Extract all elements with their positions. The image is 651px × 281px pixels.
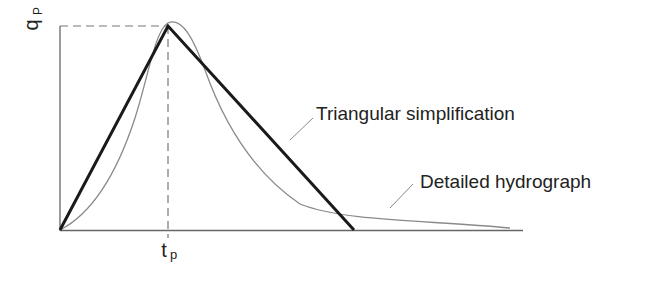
- hydrograph-diagram: Triangular simplification Detailed hydro…: [0, 0, 651, 281]
- x-axis-label-main: t: [161, 239, 167, 261]
- triangular-label: Triangular simplification: [316, 103, 515, 124]
- y-axis-label-sub: P: [31, 7, 45, 15]
- detailed-label: Detailed hydrograph: [420, 171, 591, 192]
- x-axis-label: t p: [161, 239, 177, 262]
- detailed-leader-line: [390, 184, 413, 208]
- y-axis-label: q P: [20, 7, 45, 31]
- detailed-hydrograph-curve: [60, 22, 510, 230]
- x-axis-label-sub: p: [170, 247, 177, 262]
- triangular-leader-line: [290, 118, 313, 140]
- triangular-hydrograph: [60, 26, 354, 230]
- y-axis-label-main: q: [20, 19, 42, 30]
